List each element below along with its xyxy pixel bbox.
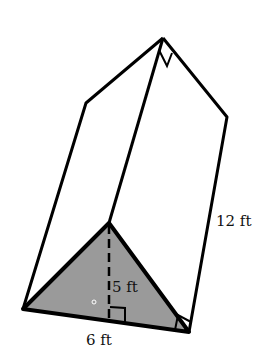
right-angle-marker-top bbox=[159, 50, 172, 66]
prism-center-edge bbox=[109, 38, 163, 223]
height-label: 5 ft bbox=[112, 278, 138, 296]
base-label: 6 ft bbox=[86, 331, 112, 349]
prism-right-edges bbox=[163, 38, 227, 332]
triangular-base-face bbox=[23, 223, 189, 332]
length-label: 12 ft bbox=[216, 212, 251, 230]
prism-diagram: 5 ft 6 ft 12 ft bbox=[0, 0, 279, 359]
